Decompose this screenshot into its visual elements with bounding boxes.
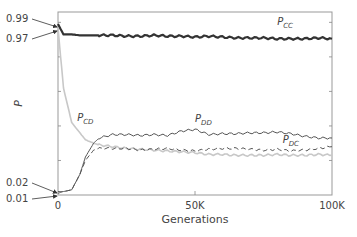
axis-labels: 050K100KGenerationsP bbox=[12, 100, 345, 226]
annotation-arrow bbox=[32, 31, 57, 39]
series-label-p-dd: PDD bbox=[195, 113, 212, 127]
y-annotation-label: 0.99 bbox=[6, 13, 28, 24]
y-annotation-label: 0.01 bbox=[6, 193, 28, 204]
x-axis-title: Generations bbox=[161, 213, 228, 226]
series-label-p-cc: PCC bbox=[277, 16, 293, 30]
x-tick-label: 100K bbox=[319, 200, 345, 211]
series-line-p-cd bbox=[58, 28, 332, 157]
series-label-p-cd: PCD bbox=[77, 112, 94, 126]
annotation-arrow bbox=[32, 19, 57, 27]
series-lines bbox=[58, 24, 332, 193]
chart: PCCPCDPDDPDC 0.990.970.020.01 050K100KGe… bbox=[0, 0, 357, 237]
series-label-p-dc: PDC bbox=[283, 134, 299, 148]
series-line-p-dd bbox=[58, 129, 332, 192]
y-annotation-label: 0.02 bbox=[6, 177, 28, 188]
y-annotation-label: 0.97 bbox=[6, 33, 28, 44]
annotation-arrow bbox=[32, 196, 57, 199]
annotation-arrow bbox=[32, 183, 57, 193]
y-axis-title: P bbox=[12, 100, 25, 107]
y-annotations: 0.990.970.020.01 bbox=[6, 13, 57, 204]
x-tick-label: 0 bbox=[55, 200, 61, 211]
x-tick-label: 50K bbox=[185, 200, 205, 211]
